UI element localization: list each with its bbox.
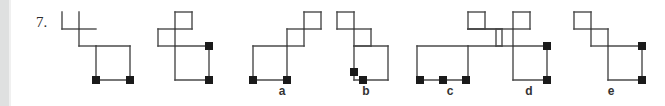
page-left-gutter	[0, 0, 9, 106]
corner-marker-square	[439, 76, 447, 84]
option-b[interactable]	[333, 8, 418, 84]
option-d[interactable]	[492, 8, 577, 84]
corner-marker-square	[638, 76, 646, 84]
option-b-drawing	[333, 8, 418, 84]
option-d-drawing	[492, 8, 577, 84]
prompt-figure-1	[58, 8, 138, 84]
question-panel: 7. abcde	[0, 0, 665, 106]
corner-marker-square	[249, 76, 257, 84]
option-a-drawing	[249, 8, 334, 84]
corner-marker-square	[205, 42, 213, 50]
option-a[interactable]	[249, 8, 334, 84]
option-label-b[interactable]: b	[356, 84, 376, 98]
prompt-figure-2-drawing	[145, 8, 225, 84]
option-e[interactable]	[570, 8, 655, 84]
option-e-drawing	[570, 8, 655, 84]
corner-marker-square	[638, 42, 646, 50]
corner-marker-square	[350, 68, 358, 76]
corner-marker-square	[205, 76, 213, 84]
corner-marker-square	[126, 76, 134, 84]
question-number-label: 7.	[36, 14, 47, 31]
page-left-gutter-edge	[9, 0, 11, 106]
option-label-e[interactable]: e	[601, 84, 621, 98]
option-label-c[interactable]: c	[440, 84, 460, 98]
option-label-a[interactable]: a	[272, 84, 292, 98]
corner-marker-square	[416, 76, 424, 84]
corner-marker-square	[283, 76, 291, 84]
prompt-figure-2	[145, 8, 225, 84]
prompt-figure-1-drawing	[58, 8, 138, 84]
corner-marker-square	[92, 76, 100, 84]
corner-marker-square	[543, 76, 551, 84]
option-label-d[interactable]: d	[519, 84, 539, 98]
corner-marker-square	[462, 76, 470, 84]
corner-marker-square	[543, 42, 551, 50]
corner-marker-square	[359, 76, 367, 84]
